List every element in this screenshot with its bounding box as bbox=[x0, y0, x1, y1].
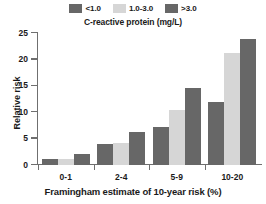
bar-group bbox=[149, 33, 205, 165]
bar bbox=[74, 154, 90, 165]
x-axis-tick-cell bbox=[149, 165, 205, 170]
legend-swatch-icon-crp-low bbox=[69, 4, 82, 13]
x-axis-tick-cell bbox=[94, 165, 150, 170]
legend-label-crp-mid: 1.0-3.0 bbox=[129, 4, 153, 13]
y-axis-tick bbox=[31, 137, 37, 138]
bar bbox=[97, 144, 113, 165]
x-axis-tick-cell bbox=[38, 165, 94, 170]
legend-label-crp-low: <1.0 bbox=[85, 4, 100, 13]
x-axis-tick-label: 2-4 bbox=[94, 172, 150, 182]
bar-group bbox=[38, 33, 94, 165]
y-axis-tick bbox=[31, 58, 37, 59]
bar bbox=[208, 102, 224, 165]
bar-group bbox=[205, 33, 261, 165]
y-axis-tick-label: 0 bbox=[2, 160, 28, 170]
relative-risk-bar-chart: <1.0 1.0-3.0 >3.0 C-reactive protein (mg… bbox=[0, 0, 266, 204]
legend-title: C-reactive protein (mg/L) bbox=[0, 17, 266, 27]
x-axis-tick bbox=[38, 165, 39, 170]
bar bbox=[185, 88, 201, 165]
bar bbox=[169, 110, 185, 165]
y-axis-tick bbox=[31, 164, 37, 165]
bar bbox=[129, 132, 145, 165]
x-axis-title: Framingham estimate of 10-year risk (%) bbox=[0, 186, 266, 197]
y-axis-tick bbox=[31, 85, 37, 86]
x-axis-tick bbox=[94, 165, 95, 170]
bar bbox=[153, 127, 169, 165]
legend-item-crp-low: <1.0 bbox=[69, 4, 100, 13]
legend-swatch-icon-crp-mid bbox=[113, 4, 126, 13]
x-axis-tick-label: 10-20 bbox=[205, 172, 261, 182]
bar bbox=[240, 39, 256, 165]
x-axis-tick-label: 5-9 bbox=[149, 172, 205, 182]
bar bbox=[113, 143, 129, 165]
y-axis-tick bbox=[31, 111, 37, 112]
x-axis-tick-label: 0-1 bbox=[38, 172, 94, 182]
bars-layer bbox=[38, 33, 260, 165]
bar bbox=[224, 53, 240, 165]
x-axis-tick bbox=[205, 165, 206, 170]
y-axis-tick bbox=[31, 32, 37, 33]
x-axis-ticks bbox=[38, 165, 260, 170]
legend-swatch-icon-crp-high bbox=[165, 4, 178, 13]
x-axis-tick bbox=[149, 165, 150, 170]
legend-label-crp-high: >3.0 bbox=[181, 4, 196, 13]
y-axis-title: Relative risk bbox=[12, 60, 22, 146]
legend-item-crp-mid: 1.0-3.0 bbox=[113, 4, 153, 13]
chart-legend: <1.0 1.0-3.0 >3.0 bbox=[0, 4, 266, 13]
bar-group bbox=[94, 33, 150, 165]
x-axis-tick-cell bbox=[205, 165, 261, 170]
x-axis-labels: 0-12-45-910-20 bbox=[38, 172, 260, 182]
legend-item-crp-high: >3.0 bbox=[165, 4, 196, 13]
y-axis-tick-label: 25 bbox=[2, 28, 28, 38]
